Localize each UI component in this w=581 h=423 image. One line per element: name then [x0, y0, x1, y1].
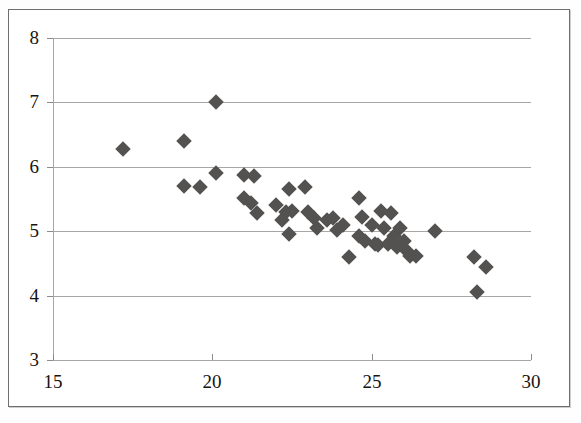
data-point	[342, 249, 358, 265]
ytick-label: 3	[13, 350, 39, 369]
data-point	[428, 223, 444, 239]
tick-x	[372, 354, 373, 360]
data-point	[176, 178, 192, 194]
data-point	[466, 249, 482, 265]
gridline-y	[53, 296, 531, 297]
xtick-label: 20	[190, 372, 234, 391]
data-point	[208, 95, 224, 111]
data-point	[115, 141, 131, 157]
xtick-label: 15	[31, 372, 75, 391]
ytick-label: 8	[13, 28, 39, 47]
tick-x	[531, 354, 532, 360]
data-point	[176, 133, 192, 149]
data-point	[469, 285, 485, 301]
ytick-label: 4	[13, 286, 39, 305]
tick-x	[212, 354, 213, 360]
tick-y	[47, 360, 53, 361]
xtick-label: 25	[350, 372, 394, 391]
tick-x	[53, 354, 54, 360]
ytick-label: 6	[13, 157, 39, 176]
y-axis-line	[53, 38, 54, 360]
ytick-label: 5	[13, 221, 39, 240]
gridline-y	[53, 167, 531, 168]
xtick-label: 30	[509, 372, 553, 391]
data-point	[351, 190, 367, 206]
gridline-y	[53, 360, 531, 361]
data-point	[281, 227, 297, 243]
scatter-plot: 34567815202530	[0, 0, 581, 423]
data-point	[297, 180, 313, 196]
data-point	[281, 182, 297, 198]
ytick-label: 7	[13, 92, 39, 111]
data-point	[192, 180, 208, 196]
data-point	[479, 259, 495, 275]
gridline-y	[53, 38, 531, 39]
gridline-y	[53, 102, 531, 103]
chart-page: 34567815202530	[0, 0, 581, 423]
